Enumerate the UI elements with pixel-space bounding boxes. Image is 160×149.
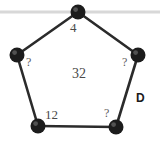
vertex-node-bottom-right [109, 120, 124, 135]
pentagon-diagram: 4 ? ? 12 ? 32 D [0, 0, 160, 149]
edge-bottom [38, 126, 116, 127]
vertex-highlight-right [133, 50, 138, 55]
vertex-highlight-bottom-right [111, 122, 116, 127]
vertex-label-top: 4 [70, 21, 77, 34]
vertex-label-right: ? [122, 56, 127, 68]
vertex-label-bottom-right: ? [104, 107, 109, 119]
edge-top-right [78, 12, 138, 55]
region-label-d: D [136, 92, 145, 104]
vertex-highlight-top [73, 7, 78, 12]
vertex-highlight-left [12, 50, 17, 55]
vertex-node-right [131, 48, 146, 63]
edge-top-left [17, 12, 78, 55]
vertex-highlight-bottom-left [33, 121, 38, 126]
vertex-label-left: ? [26, 56, 31, 68]
interior-label: 32 [72, 67, 86, 81]
vertex-label-bottom-left: 12 [45, 108, 58, 121]
vertex-node-top [71, 5, 86, 20]
vertex-node-bottom-left [31, 119, 46, 134]
vertex-node-left [10, 48, 25, 63]
